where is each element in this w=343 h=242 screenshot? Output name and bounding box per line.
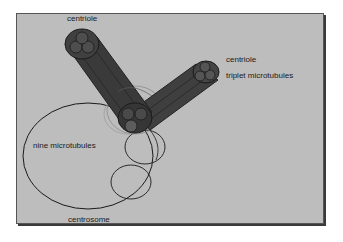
label-centriole-right: centriole bbox=[226, 56, 256, 64]
label-centrosome: centrosome bbox=[68, 216, 110, 224]
label-triplet-microtubules: triplet microtubules bbox=[226, 72, 293, 80]
junction bbox=[118, 103, 152, 133]
label-nine-microtubules: nine microtubules bbox=[33, 142, 96, 150]
loop-1 bbox=[125, 130, 165, 164]
centrosome-illustration bbox=[0, 0, 343, 242]
label-centriole-top: centriole bbox=[67, 15, 97, 23]
